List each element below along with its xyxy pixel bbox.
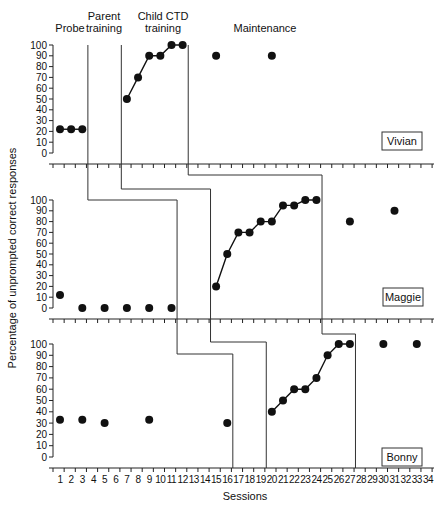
- x-tick-label: 31: [389, 474, 400, 485]
- y-tick-label: 10: [36, 137, 48, 148]
- data-point: [268, 218, 276, 226]
- data-point: [101, 419, 109, 427]
- x-tick-label: 20: [267, 474, 278, 485]
- x-tick-label: 29: [367, 474, 378, 485]
- y-tick-label: 0: [41, 303, 47, 314]
- data-point: [234, 228, 242, 236]
- y-tick-label: 50: [36, 249, 48, 260]
- x-tick-label: 4: [91, 474, 97, 485]
- y-tick-label: 0: [41, 148, 47, 159]
- data-point: [346, 218, 354, 226]
- multiple-baseline-chart: ProbeParenttrainingChild CTDtrainingMain…: [0, 0, 446, 512]
- data-point: [379, 340, 387, 348]
- data-point: [335, 340, 343, 348]
- y-tick-label: 40: [36, 104, 48, 115]
- y-tick-label: 60: [36, 384, 48, 395]
- y-tick-label: 10: [36, 440, 48, 451]
- series-maintenance: [346, 207, 399, 226]
- y-tick-label: 50: [36, 94, 48, 105]
- phase-label: Probe: [55, 22, 84, 34]
- data-point: [223, 419, 231, 427]
- data-point: [279, 201, 287, 209]
- y-tick-label: 100: [30, 40, 47, 51]
- series-maintenance: [212, 52, 276, 60]
- x-tick-label: 18: [244, 474, 255, 485]
- data-point: [413, 340, 421, 348]
- y-tick-label: 30: [36, 418, 48, 429]
- y-tick-label: 30: [36, 270, 48, 281]
- data-point: [145, 416, 153, 424]
- y-axis-label: Percentage of unprompted correct respons…: [6, 147, 18, 368]
- x-tick-label: 19: [256, 474, 267, 485]
- y-tick-label: 100: [30, 339, 47, 350]
- data-point: [301, 196, 309, 204]
- data-point: [134, 73, 142, 81]
- series-probe: [56, 125, 86, 133]
- participant-label: Maggie: [385, 291, 421, 303]
- x-tick-label: 1: [57, 474, 63, 485]
- data-point: [123, 95, 131, 103]
- x-tick-label: 33: [412, 474, 423, 485]
- series-probe: [56, 416, 231, 427]
- panel-vivian: 0102030405060708090100Vivian: [30, 40, 434, 169]
- data-point: [268, 52, 276, 60]
- phase-change-line: [188, 45, 355, 468]
- data-point: [257, 218, 265, 226]
- y-tick-label: 60: [36, 83, 48, 94]
- x-tick-label: 6: [113, 474, 119, 485]
- y-tick-label: 20: [36, 126, 48, 137]
- y-tick-label: 80: [36, 361, 48, 372]
- y-tick-label: 90: [36, 205, 48, 216]
- x-tick-label: 34: [423, 474, 434, 485]
- y-tick-label: 20: [36, 429, 48, 440]
- x-tick-label: 2: [69, 474, 75, 485]
- data-point: [312, 196, 320, 204]
- data-point: [346, 340, 354, 348]
- participant-label: Bonny: [386, 451, 418, 463]
- panel-maggie: 0102030405060708090100Maggie: [30, 195, 434, 324]
- y-tick-label: 10: [36, 292, 48, 303]
- series-line: [127, 45, 183, 99]
- y-tick-label: 40: [36, 406, 48, 417]
- phase-change-lines: [88, 45, 356, 468]
- x-tick-label: 30: [378, 474, 389, 485]
- x-tick-label: 5: [102, 474, 108, 485]
- series-maintenance: [379, 340, 420, 348]
- x-tick-label: 14: [200, 474, 211, 485]
- data-point: [391, 207, 399, 215]
- data-point: [312, 374, 320, 382]
- data-point: [56, 416, 64, 424]
- series-line: [216, 200, 316, 286]
- y-tick-label: 80: [36, 61, 48, 72]
- panel-bonny: 0102030405060708090100123456789101112131…: [30, 339, 434, 486]
- x-tick-label: 12: [178, 474, 189, 485]
- data-point: [279, 397, 287, 405]
- series-child-ctd-training: [123, 41, 187, 103]
- data-point: [101, 304, 109, 312]
- data-point: [168, 304, 176, 312]
- data-point: [212, 282, 220, 290]
- data-point: [179, 41, 187, 49]
- data-point: [78, 125, 86, 133]
- data-point: [145, 304, 153, 312]
- y-tick-label: 100: [30, 195, 47, 206]
- phase-change-line: [121, 45, 266, 468]
- x-tick-label: 15: [211, 474, 222, 485]
- y-tick-label: 50: [36, 395, 48, 406]
- data-point: [67, 125, 75, 133]
- x-tick-label: 7: [124, 474, 130, 485]
- x-tick-label: 16: [222, 474, 233, 485]
- y-tick-label: 90: [36, 350, 48, 361]
- x-tick-label: 24: [311, 474, 322, 485]
- x-tick-label: 27: [345, 474, 356, 485]
- series-child-ctd-training: [212, 196, 320, 290]
- y-tick-label: 0: [41, 452, 47, 463]
- data-point: [78, 304, 86, 312]
- data-point: [145, 52, 153, 60]
- x-tick-label: 32: [401, 474, 412, 485]
- data-point: [168, 41, 176, 49]
- x-axis-label: Sessions: [223, 490, 268, 502]
- y-tick-label: 30: [36, 115, 48, 126]
- y-tick-label: 80: [36, 216, 48, 227]
- y-tick-label: 70: [36, 72, 48, 83]
